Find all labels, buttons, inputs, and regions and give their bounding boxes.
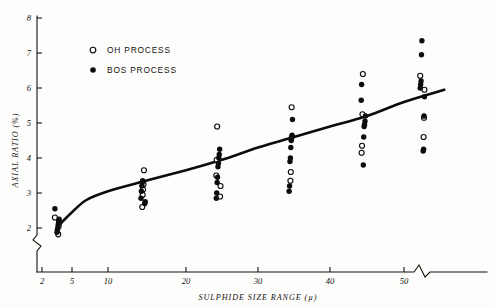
data-point <box>286 189 291 194</box>
y-tick-label: 2 <box>27 223 32 233</box>
x-tick-label: 5 <box>70 276 74 286</box>
trend-line <box>58 90 444 227</box>
legend-label: OH PROCESS <box>107 45 171 55</box>
data-point <box>288 170 293 175</box>
data-point <box>419 52 424 57</box>
data-point <box>217 147 222 152</box>
data-point <box>139 183 144 188</box>
scatter-plot-figure: 2345678 251020304050 SULPHIDE SIZE RANGE… <box>0 0 495 307</box>
x-tick-label: 10 <box>104 276 113 286</box>
y-tick-label: 3 <box>26 188 31 198</box>
data-point <box>215 124 220 129</box>
plot-canvas: 2345678 251020304050 SULPHIDE SIZE RANGE… <box>0 0 495 307</box>
x-tick-label: 50 <box>400 276 409 286</box>
y-tick-label: 7 <box>27 48 32 58</box>
data-point <box>419 38 424 43</box>
data-point <box>421 135 426 140</box>
data-point <box>215 175 220 180</box>
x-tick-label: 30 <box>253 276 263 286</box>
data-point <box>215 164 220 169</box>
data-point <box>360 72 365 77</box>
data-point <box>54 230 59 235</box>
data-point <box>420 148 425 153</box>
data-point <box>418 85 423 90</box>
data-point <box>287 183 292 188</box>
y-tick-label: 6 <box>27 83 32 93</box>
legend: OH PROCESSBOS PROCESS <box>90 45 177 75</box>
data-point <box>141 168 146 173</box>
data-point <box>359 82 364 87</box>
data-point <box>289 105 294 110</box>
y-axis-ticks: 2345678 <box>26 13 42 233</box>
data-point <box>359 150 364 155</box>
data-point <box>138 196 143 201</box>
data-point <box>288 145 293 150</box>
legend-label: BOS PROCESS <box>107 65 177 75</box>
data-point <box>359 98 364 103</box>
data-point <box>214 180 219 185</box>
data-point <box>289 138 294 143</box>
data-point <box>418 73 423 78</box>
data-point <box>422 94 427 99</box>
data-point <box>214 196 219 201</box>
data-point <box>361 134 366 139</box>
y-tick-label: 4 <box>27 153 32 163</box>
y-axis-title: AXIAL RATIO (%) <box>11 113 20 189</box>
legend-marker-open-circle-icon <box>90 47 96 53</box>
y-tick-label: 8 <box>27 13 32 23</box>
x-axis-title: SULPHIDE SIZE RANGE (µ) <box>199 293 318 302</box>
x-tick-label: 40 <box>326 276 335 286</box>
data-point <box>52 206 57 211</box>
x-tick-label: 2 <box>40 276 45 286</box>
data-point <box>363 113 368 118</box>
data-point <box>287 159 292 164</box>
y-axis-line <box>33 16 41 272</box>
data-point <box>214 190 219 195</box>
data-point <box>139 189 144 194</box>
data-point <box>288 178 293 183</box>
data-point <box>360 143 365 148</box>
y-tick-label: 5 <box>27 118 31 128</box>
legend-marker-filled-circle-icon <box>90 67 96 73</box>
data-point <box>216 155 221 160</box>
data-point <box>421 113 426 118</box>
fit-curve-group <box>58 90 444 227</box>
data-point <box>361 162 366 167</box>
x-axis-ticks: 251020304050 <box>40 267 409 286</box>
data-point <box>290 117 295 122</box>
data-point <box>142 201 147 206</box>
data-point <box>361 124 366 129</box>
x-tick-label: 20 <box>182 276 191 286</box>
